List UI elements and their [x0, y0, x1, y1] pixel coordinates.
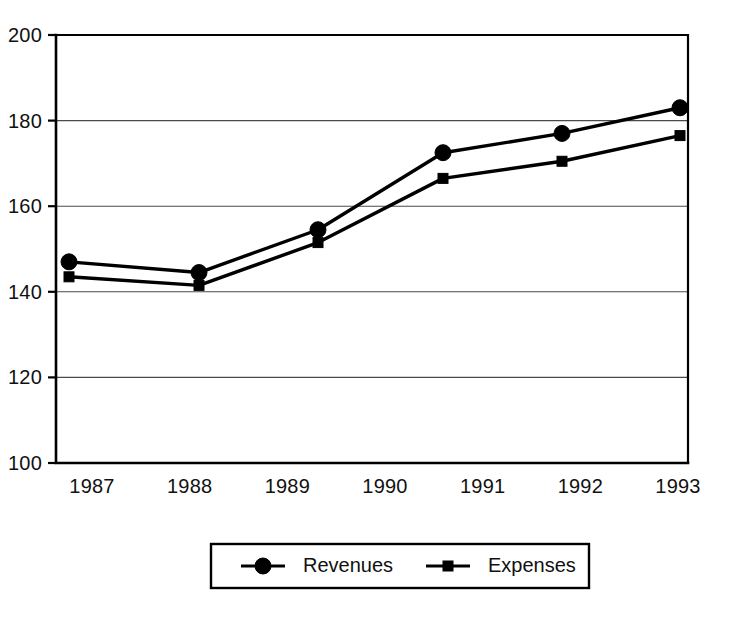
data-point-expenses-1990 — [438, 173, 448, 183]
y-tick-label-180: 180 — [8, 110, 42, 132]
x-tick-label-1988: 1988 — [167, 475, 212, 497]
x-tick-label-1992: 1992 — [558, 475, 603, 497]
data-point-revenues-1991 — [554, 125, 570, 141]
data-point-expenses-1988 — [194, 280, 204, 290]
data-point-revenues-1988 — [191, 265, 207, 281]
series-lines — [69, 108, 680, 286]
y-tick-label-140: 140 — [8, 281, 42, 303]
y-tick-label-100: 100 — [8, 452, 42, 474]
y-tick-label-160: 160 — [8, 195, 42, 217]
legend-label-expenses: Expenses — [488, 554, 576, 576]
data-point-revenues-1987 — [61, 254, 77, 270]
series-line-revenues — [69, 108, 680, 273]
legend-marker-square-icon — [443, 561, 453, 571]
gridlines — [56, 121, 688, 378]
y-tick-label-200: 200 — [8, 24, 42, 46]
series-line-expenses — [69, 136, 680, 286]
x-tick-label-1990: 1990 — [362, 475, 407, 497]
x-tick-label-1989: 1989 — [265, 475, 310, 497]
data-point-expenses-1991 — [557, 156, 567, 166]
x-tick-label-1991: 1991 — [460, 475, 505, 497]
plot-frame-border — [56, 35, 688, 463]
data-point-revenues-1993 — [672, 100, 688, 116]
y-tick-label-120: 120 — [8, 366, 42, 388]
y-axis-tick-labels: 100120140160180200 — [8, 24, 56, 474]
data-point-expenses-1993 — [675, 131, 685, 141]
chart-container: 100120140160180200 198719881989199019911… — [0, 0, 744, 632]
axis-lines — [56, 35, 688, 463]
legend-marker-circle-icon — [255, 558, 271, 574]
x-axis-tick-labels: 1987198819891990199119921993 — [69, 475, 700, 497]
line-chart: 100120140160180200 198719881989199019911… — [0, 0, 744, 632]
x-tick-label-1987: 1987 — [69, 475, 114, 497]
data-point-revenues-1989 — [310, 222, 326, 238]
legend-item-revenues[interactable]: Revenues — [241, 554, 393, 576]
legend-label-revenues: Revenues — [303, 554, 393, 576]
data-point-revenues-1990 — [435, 145, 451, 161]
data-point-expenses-1989 — [313, 238, 323, 248]
chart-legend: RevenuesExpenses — [211, 544, 589, 588]
data-point-expenses-1987 — [64, 272, 74, 282]
plot-frame — [56, 35, 688, 463]
x-tick-label-1993: 1993 — [655, 475, 700, 497]
